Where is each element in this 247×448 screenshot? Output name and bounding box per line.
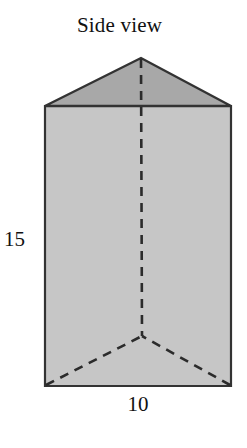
triangular-prism-drawing: [0, 0, 247, 448]
rectangular-front-face: [45, 106, 231, 386]
figure-container: Side view 15 10: [0, 0, 247, 448]
height-dimension-label: 15: [4, 227, 40, 251]
triangular-top-face: [45, 58, 231, 106]
base-width-dimension-label: 10: [45, 392, 231, 416]
